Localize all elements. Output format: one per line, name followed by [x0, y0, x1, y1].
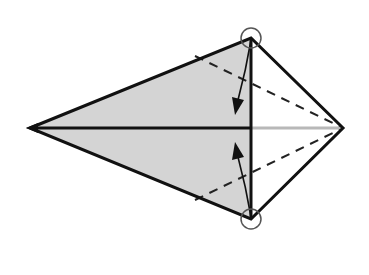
diagram-canvas — [0, 0, 369, 275]
left-tip-mark — [26, 123, 38, 133]
origami-diagram — [0, 0, 369, 275]
